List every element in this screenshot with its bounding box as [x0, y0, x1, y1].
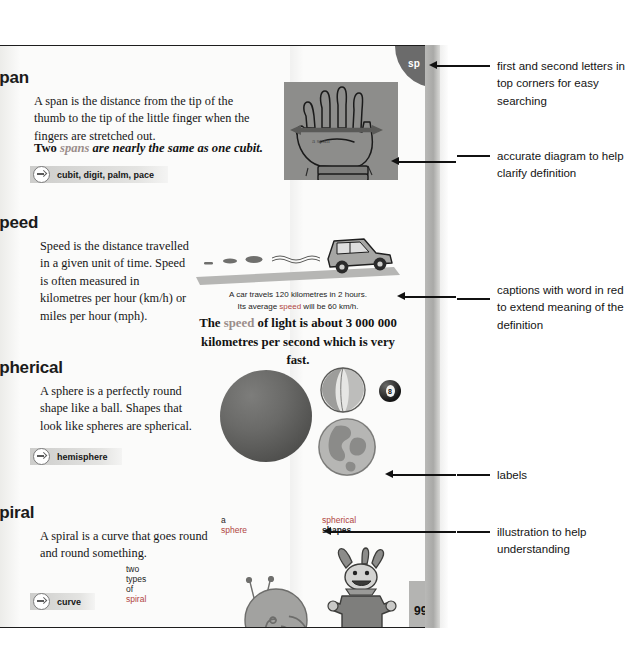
annotation-corner-letters: first and second letters in top corners …	[497, 58, 627, 110]
label-spiral-keyword: spiral	[126, 594, 146, 604]
arrow-right-icon	[33, 448, 50, 465]
definition-span: A span is the distance from the tip of t…	[34, 93, 266, 145]
example-keyword: spans	[60, 141, 89, 155]
caption-speed-prefix: Its average	[238, 302, 280, 311]
annotation-arrow-labels	[392, 474, 456, 476]
figure-spherical-shapes: 8	[207, 366, 407, 496]
label-two-types-of-spiral: two types of spiral	[126, 564, 146, 604]
beachball-illustration	[320, 367, 366, 413]
hand-span-illustration	[284, 82, 398, 180]
page-edge-band	[425, 45, 440, 628]
jack-in-the-box-spring-illustration	[322, 546, 402, 628]
label-a-sphere: a sphere	[221, 515, 247, 535]
caption-speed-suffix: will be 60 km/h.	[301, 302, 358, 311]
annotation-illustration: illustration to help understanding	[497, 524, 629, 559]
example-prefix: Two	[34, 141, 60, 155]
annotation-diagram: accurate diagram to help clarify definit…	[497, 148, 629, 183]
arrow-right-icon	[33, 593, 50, 610]
arrow-right-icon	[33, 166, 50, 183]
book-page: sp 99 span A span is the distance from t…	[0, 45, 440, 628]
headword-spherical: spherical	[0, 358, 63, 378]
xref-chip-spherical[interactable]: hemisphere	[30, 448, 122, 465]
headword-span: span	[0, 68, 29, 88]
annotation-arrow-captions	[404, 296, 456, 298]
annotation-arrow-corner-letters	[436, 65, 490, 67]
caption-speed-line1: A car travels 120 kilometres in 2 hours.	[190, 289, 406, 301]
label-a-sphere-prefix: a	[221, 515, 226, 525]
figure-car-speed	[194, 231, 406, 286]
xref-chip-span[interactable]: cubit, digit, palm, pace	[30, 166, 168, 183]
label-a-sphere-keyword: sphere	[221, 525, 247, 535]
globe-illustration	[318, 418, 376, 476]
figure-spiral-illustrations	[224, 546, 409, 628]
car-motion-illustration	[194, 231, 406, 286]
annotation-arrow-diagram	[398, 161, 456, 163]
annotation-leader-illustration	[457, 531, 490, 533]
figure-hand-span: a span	[284, 82, 398, 180]
example-line-speed: The speed of light is about 3 000 000 ki…	[192, 314, 404, 370]
annotation-captions: captions with word in red to extend mean…	[497, 282, 633, 334]
sphere-illustration	[220, 370, 312, 462]
caption-speed: A car travels 120 kilometres in 2 hours.…	[190, 289, 406, 314]
label-spherical-shapes-keyword: spherical	[322, 515, 356, 525]
annotation-leader-diagram	[457, 155, 490, 157]
xref-label-spiral: curve	[57, 597, 81, 607]
annotation-arrow-illustration	[330, 531, 456, 533]
xref-chip-spiral[interactable]: curve	[30, 593, 95, 610]
caption-speed-keyword: speed	[279, 302, 301, 311]
headword-speed: speed	[0, 213, 38, 233]
page-edge-highlight	[440, 45, 448, 628]
definition-spherical: A sphere is a perfectly round shape like…	[40, 383, 200, 435]
example-speed-keyword: speed	[224, 316, 255, 330]
annotation-labels: labels	[497, 467, 617, 484]
example-speed-prefix: The	[199, 316, 224, 330]
corner-tab-letters: sp	[408, 58, 420, 69]
xref-label-spherical: hemisphere	[57, 452, 108, 462]
example-line-span: Two spans are nearly the same as one cub…	[34, 139, 284, 157]
eight-ball-illustration: 8	[379, 380, 401, 402]
caption-speed-line2: Its average speed will be 60 km/h.	[190, 301, 406, 313]
snail-illustration	[224, 576, 334, 628]
page-gutter-shading	[0, 46, 20, 627]
label-spiral-prefix: two types of	[126, 564, 146, 594]
annotation-leader-captions	[457, 298, 490, 300]
eight-ball-number: 8	[386, 385, 395, 397]
definition-spiral: A spiral is a curve that goes round and …	[40, 528, 216, 563]
xref-label-span: cubit, digit, palm, pace	[57, 170, 154, 180]
headword-spiral: spiral	[0, 503, 34, 523]
example-suffix: are nearly the same as one cubit.	[89, 141, 263, 155]
annotation-leader-labels	[457, 474, 490, 476]
span-figure-label: a span	[312, 137, 330, 145]
definition-speed: Speed is the distance travelled in a giv…	[40, 238, 192, 325]
